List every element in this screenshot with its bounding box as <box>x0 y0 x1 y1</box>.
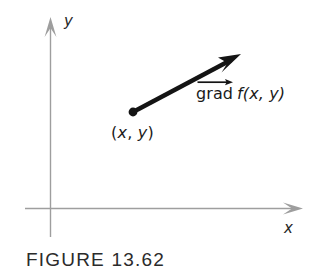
point-label-close: ) <box>147 123 153 142</box>
figure-caption: FIGURE 13.62 <box>26 249 165 271</box>
gradient-label-prefix: grad <box>196 84 233 103</box>
point-label-y: y <box>138 123 148 142</box>
base-point-dot <box>129 108 138 117</box>
y-axis <box>45 17 57 237</box>
gradient-vector-label: grad f(x, y) <box>196 86 285 102</box>
base-point-label: (x, y) <box>111 125 154 141</box>
gradient-vector <box>133 54 241 112</box>
gradient-label-word: grad <box>196 86 233 102</box>
gradient-label-function: f <box>233 84 243 103</box>
figure-drawing-canvas <box>0 0 331 276</box>
point-label-x: x <box>117 123 127 142</box>
x-axis-label: x <box>284 221 293 236</box>
x-axis <box>25 203 303 215</box>
y-axis-label: y <box>64 14 73 29</box>
gradient-label-args: (x, y) <box>243 84 285 103</box>
point-label-separator: , <box>127 123 138 142</box>
figure-container: y x (x, y) grad f(x, y) FIGURE 13.62 <box>0 0 331 276</box>
